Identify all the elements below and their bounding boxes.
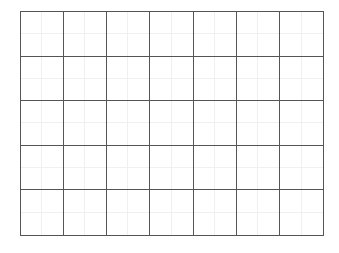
grid-cell [194,190,237,235]
grid-cell [194,12,237,57]
grid-cell [237,190,280,235]
grid-cell [107,190,150,235]
grid-cell [280,146,323,191]
grid-cell [150,101,193,146]
grid-cell [21,146,64,191]
grid-cell [107,12,150,57]
grid-cell [64,190,107,235]
grid-cell [194,101,237,146]
grid-cell [237,57,280,102]
grid-cell [237,146,280,191]
grid-cell [280,57,323,102]
grid-cell [280,101,323,146]
blank-grid [20,11,324,236]
grid-cell [21,57,64,102]
grid-cell [21,190,64,235]
grid-cell [107,101,150,146]
grid-cell [64,101,107,146]
grid-cell [107,57,150,102]
grid-cell [107,146,150,191]
grid-cell [280,12,323,57]
grid-cell [64,57,107,102]
grid-cell [237,12,280,57]
grid-cell [21,12,64,57]
grid-cell [194,57,237,102]
grid-cell [280,190,323,235]
grid-cell [21,101,64,146]
grid-cell [64,146,107,191]
grid-cell [150,146,193,191]
grid-cell [237,101,280,146]
grid-cell [150,12,193,57]
grid-cell [150,190,193,235]
grid-cell [150,57,193,102]
grid-cell [194,146,237,191]
grid-cell [64,12,107,57]
